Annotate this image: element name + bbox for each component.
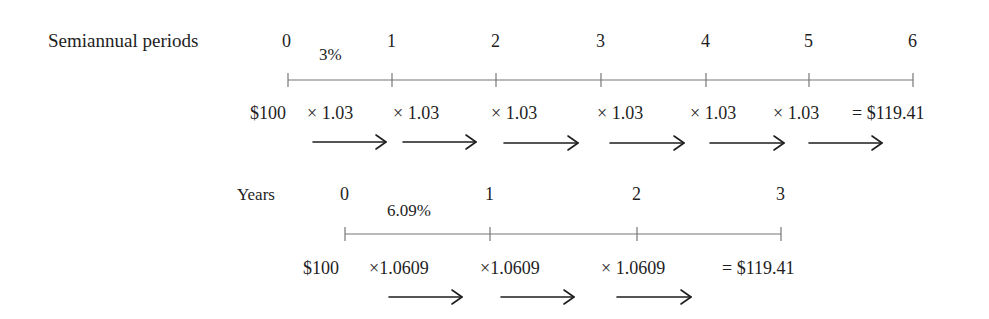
semiannual-periods-label: Semiannual periods <box>48 30 198 52</box>
multiplier: ×1.0609 <box>369 258 429 279</box>
arrow-right-icon <box>501 290 574 304</box>
arrow-right-icon <box>809 136 882 150</box>
annual-arrows <box>389 290 691 304</box>
period-tick-label: 6 <box>908 31 917 52</box>
period-tick-label: 1 <box>387 31 396 52</box>
multiplier: × 1.03 <box>690 103 736 124</box>
arrow-right-icon <box>403 135 476 149</box>
multiplier: × 1.03 <box>597 103 643 124</box>
period-tick-label: 0 <box>282 31 291 52</box>
arrow-right-icon <box>504 136 578 150</box>
multiplier: × 1.03 <box>773 103 819 124</box>
multiplier: ×1.0609 <box>480 258 540 279</box>
period-tick-label: 2 <box>491 31 500 52</box>
year-tick-label: 3 <box>776 184 785 205</box>
arrow-right-icon <box>610 136 684 150</box>
years-label: Years <box>237 185 275 205</box>
year-tick-label: 2 <box>632 184 641 205</box>
semiannual-result: = $119.41 <box>852 103 924 124</box>
multiplier: × 1.0609 <box>601 258 665 279</box>
multiplier: × 1.03 <box>393 103 439 124</box>
annual-result: = $119.41 <box>722 258 794 279</box>
semiannual-principal: $100 <box>250 103 286 124</box>
semiannual-rate-label: 3% <box>319 45 342 65</box>
multiplier: × 1.03 <box>491 103 537 124</box>
semiannual-arrows <box>313 135 882 150</box>
annual-rate-label: 6.09% <box>387 201 431 221</box>
semiannual-axis <box>288 73 913 87</box>
year-tick-label: 0 <box>340 184 349 205</box>
arrow-right-icon <box>313 135 386 149</box>
arrow-right-icon <box>710 136 784 150</box>
arrow-right-icon <box>617 290 691 304</box>
annual-principal: $100 <box>303 258 339 279</box>
period-tick-label: 4 <box>701 31 710 52</box>
period-tick-label: 5 <box>804 31 813 52</box>
arrow-right-icon <box>389 290 462 304</box>
annual-axis <box>345 227 781 241</box>
year-tick-label: 1 <box>485 184 494 205</box>
multiplier: × 1.03 <box>307 103 353 124</box>
period-tick-label: 3 <box>596 31 605 52</box>
